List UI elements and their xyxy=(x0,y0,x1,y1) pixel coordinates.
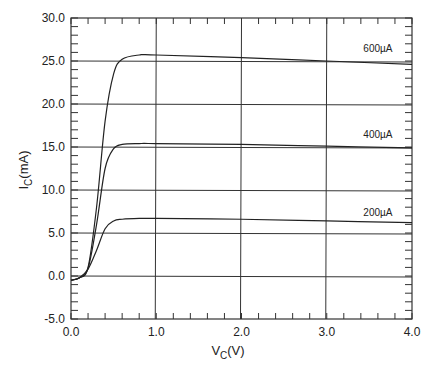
h-gridline xyxy=(71,233,412,234)
v-gridline xyxy=(241,18,242,319)
x-tick-label: 4.0 xyxy=(404,325,421,339)
x-tick-label: 2.0 xyxy=(233,325,250,339)
curve-label: 400µA xyxy=(363,129,392,140)
y-tick-labels: -5.00.05.010.015.020.025.030.0 xyxy=(42,11,66,326)
x-axis-title: VC(V) xyxy=(211,343,244,361)
y-tick-label: 30.0 xyxy=(42,11,66,25)
x-tick-label: 1.0 xyxy=(148,325,165,339)
ic-vc-chart: 0.01.02.03.04.0 -5.00.05.010.015.020.025… xyxy=(0,0,428,376)
y-tick-label: 25.0 xyxy=(42,54,66,68)
y-axis-title: IC(mA) xyxy=(16,150,34,189)
h-gridline xyxy=(71,276,412,277)
grid-lines xyxy=(71,18,412,319)
curve-label: 200µA xyxy=(363,207,392,218)
curve-200ua xyxy=(71,218,412,280)
curve-label: 600µA xyxy=(363,43,392,54)
x-tick-labels: 0.01.02.03.04.0 xyxy=(63,325,421,339)
x-tick-label: 0.0 xyxy=(63,325,80,339)
y-tick-label: 20.0 xyxy=(42,97,66,111)
y-tick-label: -5.0 xyxy=(44,312,65,326)
curve-annotations: 600µA400µA200µA xyxy=(363,43,392,217)
h-gridline xyxy=(71,190,412,191)
v-gridline xyxy=(326,18,327,319)
y-tick-label: 10.0 xyxy=(42,183,66,197)
x-tick-label: 3.0 xyxy=(318,325,335,339)
y-tick-label: 15.0 xyxy=(42,140,66,154)
v-gridline xyxy=(155,18,156,319)
y-tick-label: 5.0 xyxy=(48,226,65,240)
y-tick-label: 0.0 xyxy=(48,269,65,283)
